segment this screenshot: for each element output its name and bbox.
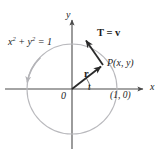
point-p-label: P(x, y) (107, 58, 134, 68)
circle-equation-label: x2 + y2 = 1 (8, 36, 52, 47)
angle-t-label: t (88, 83, 91, 93)
vector-r-label: r (84, 69, 89, 80)
equation-plus: + (18, 36, 25, 47)
y-axis-label: y (66, 10, 70, 20)
vector-t-line (86, 41, 103, 66)
equation-x-exponent: 2 (12, 35, 15, 42)
equation-equals: = (38, 36, 45, 47)
origin-label: 0 (61, 91, 66, 101)
figure-canvas (0, 0, 163, 162)
vector-t-label: T = v (97, 28, 120, 39)
circle-direction-arrow-icon (27, 58, 40, 83)
unit-circle-figure: y x 0 x2 + y2 = 1 P(x, y) (1, 0) r t T =… (0, 0, 163, 162)
point-one-zero-label: (1, 0) (110, 91, 131, 101)
equation-value: 1 (47, 36, 52, 47)
x-axis-label: x (150, 82, 154, 92)
equation-y-exponent: 2 (32, 35, 35, 42)
